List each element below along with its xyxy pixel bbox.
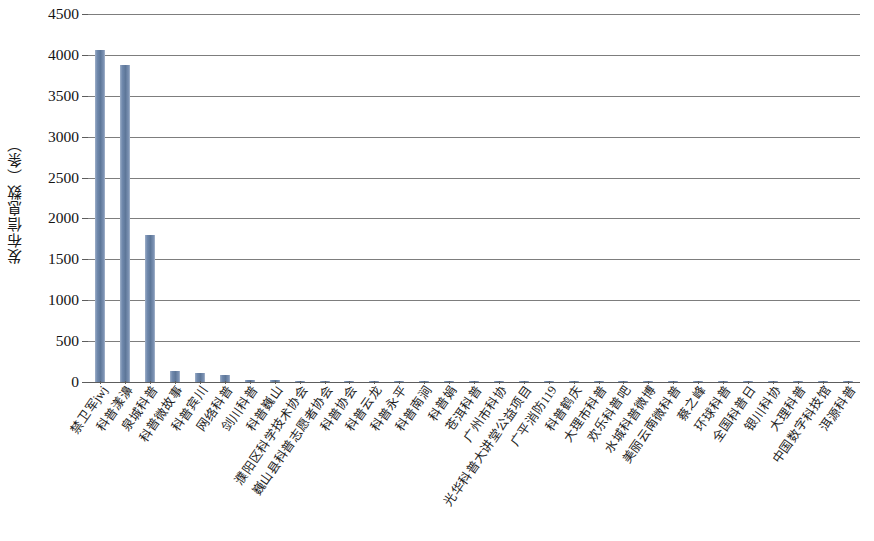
y-tick-label: 4500 — [48, 5, 88, 23]
y-tick-label: 2000 — [48, 209, 88, 227]
y-tick-label: 1500 — [48, 250, 88, 268]
y-tick-label: 1000 — [48, 291, 88, 309]
y-tick-label: 3000 — [48, 128, 88, 146]
y-tick-label: 0 — [71, 373, 88, 391]
y-tick-label: 2500 — [48, 169, 88, 187]
bar — [95, 50, 105, 382]
x-axis-labels: 禁卫军jwj科普漾濞泉城科普科普微故事科普宾川网络科普剑川科普科普巍山濮阳区科学… — [88, 384, 860, 541]
y-tick-label: 3500 — [48, 87, 88, 105]
bar — [145, 235, 155, 382]
bars-layer — [88, 14, 860, 382]
plot-area: 050010001500200025003000350040004500 — [88, 14, 860, 382]
y-axis-title: 发布信息数（条） — [2, 50, 28, 350]
y-tick-label: 4000 — [48, 46, 88, 64]
bar-chart: 发布信息数（条） 0500100015002000250030003500400… — [0, 0, 874, 541]
bar — [120, 65, 130, 382]
y-tick-label: 500 — [56, 332, 88, 350]
